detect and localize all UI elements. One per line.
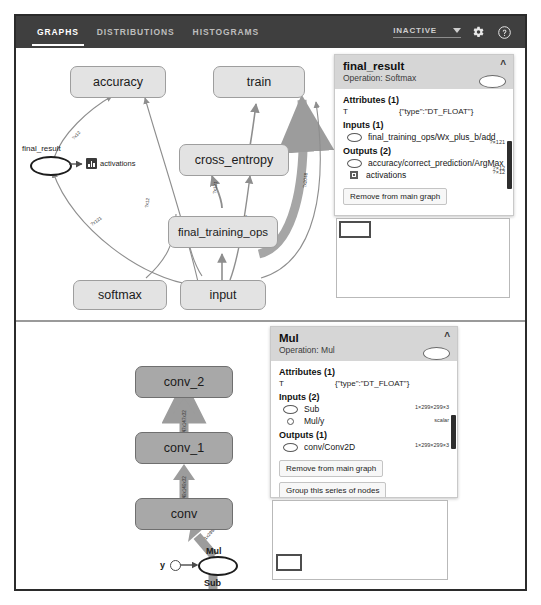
attribute-key: T bbox=[279, 379, 335, 388]
attribute-value: {"type":"DT_FLOAT"} bbox=[335, 379, 409, 388]
inputs-title: Inputs (2) bbox=[279, 392, 449, 402]
outputs-title: Outputs (1) bbox=[279, 430, 449, 440]
output-row[interactable]: activations ?×12 bbox=[343, 170, 505, 180]
output-shape: ?×12 bbox=[493, 169, 505, 175]
output-name: accuracy/correct_prediction/ArgMax bbox=[368, 158, 505, 168]
output-shape: 1×299×299×3 bbox=[415, 442, 449, 448]
remove-from-main-graph-button[interactable]: Remove from main graph bbox=[343, 188, 447, 205]
graph-node-final-training-ops-label: final_training_ops bbox=[178, 226, 268, 238]
output-name: activations bbox=[366, 170, 505, 180]
minimap-viewport[interactable] bbox=[339, 221, 371, 238]
tab-histograms-label: HISTOGRAMS bbox=[193, 27, 259, 37]
card-title: final_result bbox=[343, 60, 505, 72]
tab-graphs-label: GRAPHS bbox=[37, 27, 79, 37]
ellipse-node-icon bbox=[283, 405, 298, 414]
graph-minimap-top[interactable] bbox=[336, 218, 510, 298]
graph-node-y[interactable] bbox=[170, 560, 181, 571]
tab-distributions-label: DISTRIBUTIONS bbox=[97, 27, 175, 37]
svg-text:?x12: ?x12 bbox=[71, 130, 82, 141]
input-shape: 1×299×299×3 bbox=[415, 404, 449, 410]
tab-graphs[interactable]: GRAPHS bbox=[28, 16, 88, 48]
attribute-value: {"type":"DT_FLOAT"} bbox=[399, 107, 473, 116]
attribute-row: T {"type":"DT_FLOAT"} bbox=[343, 107, 505, 116]
summary-node-activations-label: activations bbox=[100, 159, 135, 168]
tab-histograms[interactable]: HISTOGRAMS bbox=[184, 16, 268, 48]
graph-node-cross-entropy[interactable]: cross_entropy bbox=[179, 144, 289, 176]
input-row[interactable]: Mul/y scalar bbox=[279, 416, 449, 426]
graph-node-final-training-ops[interactable]: final_training_ops bbox=[168, 216, 278, 248]
graph-node-train[interactable]: train bbox=[213, 66, 305, 98]
ellipse-node-icon bbox=[283, 443, 298, 452]
graph-minimap-bottom[interactable] bbox=[272, 500, 448, 580]
card-title: Mul bbox=[279, 332, 449, 344]
svg-text:?x121: ?x121 bbox=[90, 215, 103, 227]
graph-node-input-label: input bbox=[209, 288, 236, 302]
y-node-label: y bbox=[160, 560, 165, 570]
top-toolbar: GRAPHS DISTRIBUTIONS HISTOGRAMS INACTIVE bbox=[16, 16, 525, 48]
card-scrollbar[interactable] bbox=[507, 141, 512, 189]
group-series-button[interactable]: Group this series of nodes bbox=[279, 482, 386, 498]
input-name: final_training_ops/Wx_plus_b/add bbox=[368, 132, 505, 142]
summary-node-activations[interactable]: activations bbox=[86, 158, 135, 169]
input-name: Mul/y bbox=[304, 416, 449, 426]
input-row[interactable]: final_training_ops/Wx_plus_b/add ?×121 bbox=[343, 132, 505, 142]
graph-node-accuracy-label: accuracy bbox=[93, 75, 143, 89]
mul-node-label: Mul bbox=[206, 546, 222, 556]
node-info-card-final-result[interactable]: final_result Operation: Softmax ^ Attrib… bbox=[334, 54, 514, 216]
output-row[interactable]: accuracy/correct_prediction/ArgMax ?×12 bbox=[343, 158, 505, 168]
card-header: Mul Operation: Mul ^ bbox=[271, 327, 457, 361]
run-status-dropdown[interactable]: INACTIVE bbox=[393, 26, 461, 38]
ellipse-node-icon bbox=[479, 75, 506, 88]
card-scrollbar[interactable] bbox=[451, 415, 456, 449]
graph-node-mul[interactable] bbox=[198, 556, 238, 576]
graph-node-accuracy[interactable]: accuracy bbox=[70, 66, 166, 98]
graph-node-cross-entropy-label: cross_entropy bbox=[195, 153, 274, 167]
tab-bar: GRAPHS DISTRIBUTIONS HISTOGRAMS bbox=[28, 16, 268, 48]
chevron-up-icon[interactable]: ^ bbox=[500, 59, 506, 70]
screenshot-root: GRAPHS DISTRIBUTIONS HISTOGRAMS INACTIVE bbox=[0, 0, 541, 605]
run-status-value: INACTIVE bbox=[393, 26, 437, 35]
card-body: Attributes (1) T {"type":"DT_FLOAT"} Inp… bbox=[271, 361, 457, 498]
graph-node-final-result[interactable] bbox=[30, 156, 72, 176]
input-shape: ?×121 bbox=[490, 139, 505, 145]
toolbar-actions: INACTIVE bbox=[393, 23, 513, 41]
minimap-viewport[interactable] bbox=[276, 554, 302, 571]
attributes-title: Attributes (1) bbox=[343, 95, 505, 105]
outputs-title: Outputs (2) bbox=[343, 146, 505, 156]
ellipse-node-icon bbox=[423, 347, 450, 360]
input-row[interactable]: Sub 1×299×299×3 bbox=[279, 404, 449, 414]
help-circle-icon[interactable] bbox=[495, 23, 513, 41]
attribute-key: T bbox=[343, 107, 399, 116]
graph-node-conv-1-label: conv_1 bbox=[164, 441, 204, 455]
sub-node-label: Sub bbox=[204, 578, 221, 588]
output-row[interactable]: conv/Conv2D 1×299×299×3 bbox=[279, 442, 449, 452]
remove-from-main-graph-button[interactable]: Remove from main graph bbox=[279, 460, 383, 477]
gear-icon[interactable] bbox=[469, 23, 487, 41]
graph-node-softmax[interactable]: softmax bbox=[73, 280, 167, 310]
tensorboard-window: GRAPHS DISTRIBUTIONS HISTOGRAMS INACTIVE bbox=[14, 14, 527, 591]
svg-text:?x2048: ?x2048 bbox=[302, 172, 309, 188]
chevron-up-icon[interactable]: ^ bbox=[444, 331, 450, 342]
tab-distributions[interactable]: DISTRIBUTIONS bbox=[88, 16, 184, 48]
histogram-summary-icon bbox=[86, 158, 97, 169]
graph-node-conv-2[interactable]: conv_2 bbox=[135, 366, 233, 398]
input-shape: scalar bbox=[434, 417, 449, 423]
graph-node-softmax-label: softmax bbox=[98, 288, 142, 302]
graph-node-train-label: train bbox=[247, 75, 271, 89]
attributes-title: Attributes (1) bbox=[279, 367, 449, 377]
ellipse-node-icon bbox=[347, 159, 362, 168]
graph-node-conv[interactable]: conv bbox=[135, 498, 233, 530]
card-body: Attributes (1) T {"type":"DT_FLOAT"} Inp… bbox=[335, 89, 513, 213]
chevron-down-icon bbox=[453, 28, 461, 33]
graph-node-conv-2-label: conv_2 bbox=[164, 375, 204, 389]
attribute-row: T {"type":"DT_FLOAT"} bbox=[279, 379, 449, 388]
inputs-title: Inputs (1) bbox=[343, 120, 505, 130]
card-header: final_result Operation: Softmax ^ bbox=[335, 55, 513, 89]
summary-square-icon bbox=[350, 171, 358, 179]
final-result-node-label: final_result bbox=[22, 144, 61, 153]
node-info-card-mul[interactable]: Mul Operation: Mul ^ Attributes (1) T {"… bbox=[270, 326, 458, 498]
small-circle-icon bbox=[287, 418, 294, 425]
graph-node-input[interactable]: input bbox=[180, 280, 266, 310]
svg-text:?x12: ?x12 bbox=[144, 197, 150, 208]
graph-node-conv-1[interactable]: conv_1 bbox=[135, 432, 233, 464]
